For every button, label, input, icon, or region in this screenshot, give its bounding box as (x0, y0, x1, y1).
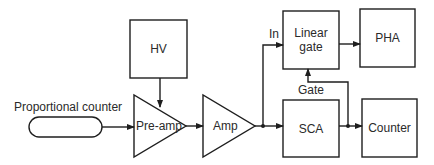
gate-edge-label: Gate (298, 83, 324, 97)
in-edge-label: In (269, 27, 279, 41)
sca-label: SCA (283, 100, 339, 157)
proportional-counter-label: Proportional counter (14, 100, 122, 114)
counter-label-text: Counter (368, 121, 411, 135)
amp-to-linear-gate-line (263, 45, 283, 126)
proportional-counter-tube (29, 117, 102, 137)
linear-gate-label: Linear gate (283, 11, 339, 69)
linear-gate-label-line1: Linear (294, 26, 327, 40)
hv-label: HV (130, 20, 187, 78)
pha-label-text: PHA (375, 31, 400, 45)
sca-output-junction-dot (346, 124, 350, 128)
amp-label: Amp (213, 119, 238, 133)
preamp-label: Pre-amp (136, 119, 182, 133)
hv-label-text: HV (150, 42, 167, 56)
sca-label-text: SCA (299, 122, 324, 136)
counter-label: Counter (362, 99, 417, 157)
pha-label: PHA (360, 9, 415, 67)
linear-gate-label-line2: gate (299, 40, 322, 54)
amp-output-junction-dot (261, 124, 265, 128)
